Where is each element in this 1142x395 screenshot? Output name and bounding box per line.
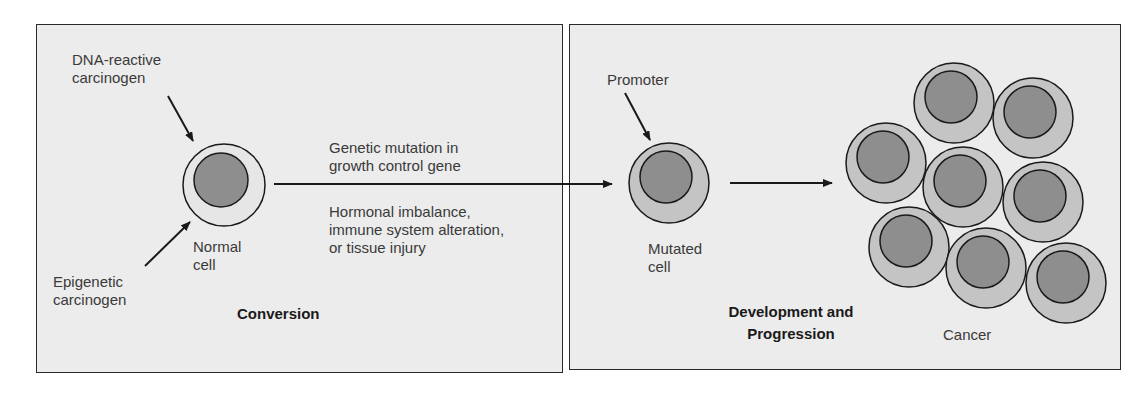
dna-reactive-carcinogen-label: DNA-reactive carcinogen	[72, 51, 161, 87]
normal-cell-icon	[183, 144, 265, 226]
cancer-cell-icon	[993, 78, 1073, 158]
mutated-cell-label: Mutated cell	[648, 240, 702, 276]
cancer-cell-icon	[846, 123, 926, 203]
cancer-cell-icon	[914, 63, 994, 143]
cancer-cell-icon	[946, 228, 1026, 308]
contributing-factors-label: Hormonal imbalance, immune system altera…	[329, 203, 504, 257]
promoter-label: Promoter	[607, 71, 669, 89]
cancer-cells-cluster-icon	[846, 63, 1106, 323]
cancer-cell-icon	[869, 207, 949, 287]
epigenetic-carcinogen-arrow	[145, 222, 190, 266]
mutated-cell-icon	[629, 143, 709, 223]
epigenetic-carcinogen-label: Epigenetic carcinogen	[53, 273, 126, 309]
cancer-label: Cancer	[943, 326, 991, 344]
normal-cell-label: Normal cell	[193, 238, 241, 274]
development-progression-title: Development and Progression	[711, 301, 871, 345]
dna-carcinogen-arrow	[168, 96, 193, 141]
cancer-cell-icon	[1003, 162, 1083, 242]
cancer-cell-icon	[1026, 243, 1106, 323]
genetic-mutation-label: Genetic mutation in growth control gene	[329, 139, 461, 175]
cancer-cell-icon	[923, 147, 1003, 227]
promoter-arrow	[625, 93, 650, 140]
conversion-title: Conversion	[237, 303, 320, 325]
